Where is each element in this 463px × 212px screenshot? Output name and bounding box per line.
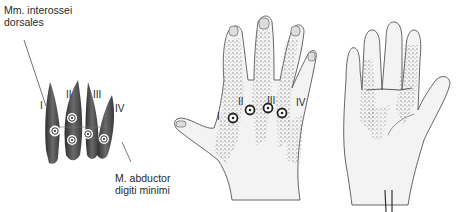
finger-number-I: I — [217, 111, 220, 122]
muscle-number-III: III — [93, 89, 101, 100]
diagram-canvas — [0, 0, 463, 212]
interossei-label: Mm. interossei dorsales — [4, 4, 72, 28]
muscle-number-I: I — [40, 100, 43, 111]
trigger-point-marker — [83, 129, 93, 139]
muscle-I — [45, 82, 60, 164]
trigger-point-marker — [50, 126, 60, 136]
interossei-label-line1: Mm. interossei — [4, 4, 72, 16]
trigger-point-marker — [99, 134, 109, 144]
trigger-point-marker — [229, 114, 238, 123]
muscle-number-II: II — [66, 89, 72, 100]
trigger-point-marker — [278, 109, 287, 118]
trigger-point-marker — [67, 113, 77, 123]
abductor-leader-line — [122, 142, 131, 162]
finger-number-IV: IV — [296, 97, 305, 108]
interossei-label-line2: dorsales — [4, 16, 72, 28]
finger-number-II: II — [238, 96, 244, 107]
palmar-hand-panel — [344, 22, 450, 212]
finger-number-III: III — [267, 95, 275, 106]
abductor-label: M. abductor digiti minimi — [115, 172, 170, 196]
muscle-number-IV: IV — [115, 103, 124, 114]
trigger-point-marker — [246, 106, 255, 115]
abductor-label-line1: M. abductor — [115, 172, 170, 184]
abductor-label-line2: digiti minimi — [115, 184, 170, 196]
interossei-leader-line — [24, 40, 46, 106]
trigger-point-marker — [67, 135, 77, 145]
dorsal-hand-panel — [175, 16, 317, 200]
